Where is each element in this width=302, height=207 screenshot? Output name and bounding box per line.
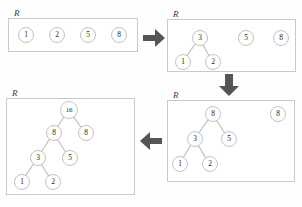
- node-1[interactable]: 1: [18, 27, 34, 43]
- node-5[interactable]: 5: [221, 131, 237, 147]
- node-2[interactable]: 2: [45, 174, 61, 190]
- node-8[interactable]: 8: [273, 30, 289, 46]
- node-5[interactable]: 5: [80, 27, 96, 43]
- node-16[interactable]: 16: [60, 101, 78, 119]
- node-8[interactable]: 8: [111, 27, 127, 43]
- node-2[interactable]: 2: [205, 54, 221, 70]
- arrow-left-step3: [138, 131, 162, 151]
- node-1[interactable]: 1: [175, 54, 191, 70]
- node-8-left[interactable]: 8: [46, 125, 62, 141]
- node-1[interactable]: 1: [14, 174, 30, 190]
- figure-canvas: R1258R31258R835128R16883512: [0, 0, 302, 207]
- panel-root-label: R: [12, 89, 18, 98]
- node-3[interactable]: 3: [192, 30, 208, 46]
- arrow-right-step1: [143, 28, 165, 48]
- node-8-root[interactable]: 8: [205, 106, 221, 122]
- node-3[interactable]: 3: [30, 150, 46, 166]
- node-3[interactable]: 3: [187, 131, 203, 147]
- arrow-down-step2: [219, 74, 239, 96]
- node-1[interactable]: 1: [172, 156, 188, 172]
- node-8-right[interactable]: 8: [78, 125, 94, 141]
- node-2[interactable]: 2: [202, 156, 218, 172]
- node-2[interactable]: 2: [49, 27, 65, 43]
- panel-root-label: R: [14, 9, 20, 18]
- node-5[interactable]: 5: [238, 30, 254, 46]
- node-8-loose[interactable]: 8: [270, 106, 286, 122]
- panel-root-label: R: [173, 10, 179, 19]
- panel-root-label: R: [173, 91, 179, 100]
- node-5[interactable]: 5: [62, 150, 78, 166]
